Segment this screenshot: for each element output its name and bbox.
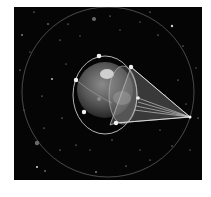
beam-apex-icon [189,116,192,119]
satellite-icon [97,54,102,59]
outer-orbit-satellite-icon [92,17,96,21]
satellite-icon [129,65,133,69]
outer-orbit-satellite-icon [35,141,39,145]
ground-point [97,97,101,101]
space-scene [14,7,202,180]
satellite-icon [136,96,140,100]
satellite-icon [114,121,118,125]
coverage-beam-cone [109,66,190,125]
orbit-visualization [14,7,202,180]
satellite-icon [74,78,78,82]
satellite-icon [82,110,86,114]
